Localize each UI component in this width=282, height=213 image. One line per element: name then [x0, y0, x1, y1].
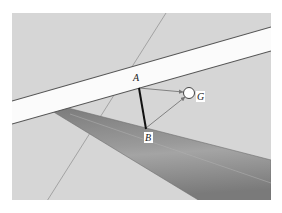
- diagram-canvas: A G B: [0, 0, 282, 213]
- label-g: G: [197, 91, 204, 102]
- label-a: A: [132, 72, 140, 83]
- label-b: B: [145, 132, 151, 143]
- point-g-marker: [184, 88, 195, 99]
